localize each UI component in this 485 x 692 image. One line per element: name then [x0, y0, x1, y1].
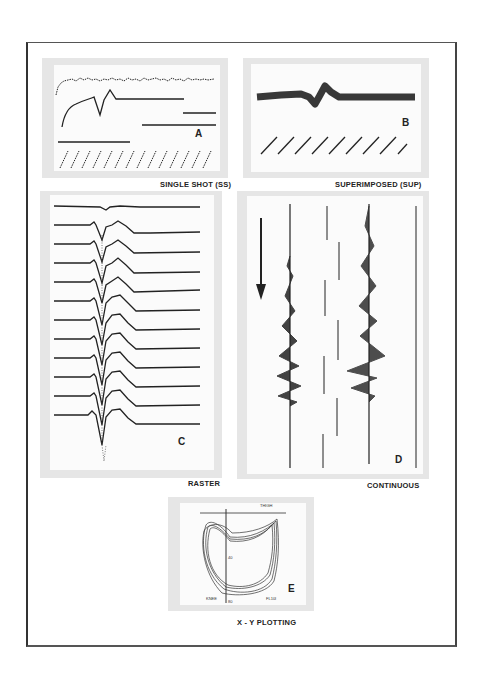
panel-e-xy-plotting: E THIGH KNEE FL10I 40 80	[168, 497, 314, 611]
panel-b-superimposed: B	[243, 58, 429, 178]
panel-c-trace-area: C	[50, 195, 214, 470]
panel-d-letter: D	[395, 454, 402, 465]
panel-a-trace-area: A	[54, 65, 220, 171]
panel-a-letter: A	[195, 128, 202, 139]
panel-e-thigh-label: THIGH	[260, 503, 272, 508]
panel-c-caption: RASTER	[188, 479, 220, 488]
panel-b-caption: SUPERIMPOSED (SUP)	[335, 180, 422, 189]
panel-b-trace-area: B	[251, 64, 421, 172]
panel-c-traces	[50, 195, 214, 470]
panel-e-bottom-mark: 80	[228, 599, 232, 604]
panel-d-caption: CONTINUOUS	[367, 481, 419, 490]
panel-e-knee-label: KNEE	[206, 596, 217, 601]
panel-e-plot-area: E THIGH KNEE FL10I 40 80	[180, 503, 306, 605]
panel-d-trace-area: D	[247, 196, 423, 474]
panel-e-flexion-label: FL10I	[266, 596, 276, 601]
down-arrow-icon	[256, 284, 266, 300]
panel-b-letter: B	[402, 117, 409, 128]
panel-b-traces	[251, 64, 421, 172]
panel-d-continuous: D	[237, 191, 429, 479]
panel-e-center-mark: 40	[228, 555, 232, 560]
panel-a-single-shot: A	[42, 58, 228, 178]
panel-a-caption: SINGLE SHOT (SS)	[160, 180, 231, 189]
panel-c-letter: C	[178, 436, 185, 447]
panel-d-traces	[247, 196, 423, 474]
panel-e-letter: E	[288, 583, 295, 594]
panel-e-caption: X - Y PLOTTING	[237, 618, 296, 627]
panel-c-raster: C	[40, 191, 222, 478]
panel-a-traces	[54, 65, 220, 171]
